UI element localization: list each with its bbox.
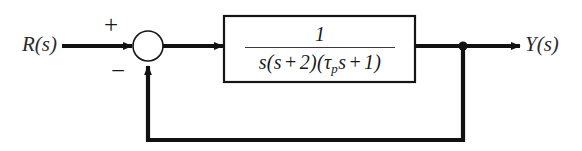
den-open-paren-2: ( — [317, 51, 324, 73]
transfer-function-denominator: s(s+2)(τps+1) — [259, 48, 382, 75]
den-factor-s: s — [259, 51, 267, 73]
den-operator-2: + — [346, 51, 364, 73]
transfer-function-numerator: 1 — [315, 24, 325, 47]
input-signal-label: R(s) — [22, 34, 57, 55]
den-factor2-s: s — [274, 51, 282, 73]
den-factor3-const: 1 — [364, 51, 374, 73]
plant-transfer-function: 1 s(s+2)(τps+1) — [225, 17, 415, 82]
summing-junction-circle — [133, 31, 163, 61]
den-close-paren-2: ) — [374, 51, 381, 73]
den-operator-1: + — [282, 51, 300, 73]
summing-junction-minus-sign: − — [111, 58, 125, 83]
block-diagram-canvas: R(s) Y(s) + − 1 s(s+2)(τps+1) — [0, 0, 582, 151]
den-close-paren-1: ) — [310, 51, 317, 73]
den-factor2-const: 2 — [300, 51, 310, 73]
summing-junction-plus-sign: + — [104, 12, 118, 37]
output-signal-label: Y(s) — [525, 34, 559, 55]
den-open-paren-1: ( — [267, 51, 274, 73]
